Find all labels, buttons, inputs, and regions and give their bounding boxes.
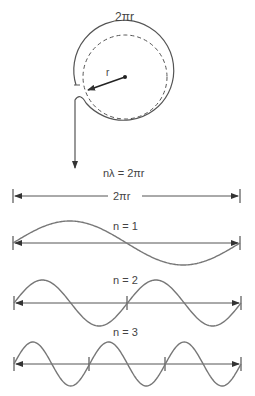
de-broglie-standing-wave-diagram: 2πr r nλ = 2πr 2πr n = 1 n = 2 n = 3 xyxy=(0,0,255,396)
unwrap-arrow xyxy=(75,97,86,168)
orbit-circle xyxy=(74,20,174,168)
radius-arrow xyxy=(88,77,125,90)
circumference-label: 2πr xyxy=(115,11,134,23)
relation-label: nλ = 2πr xyxy=(103,168,145,179)
length-label: 2πr xyxy=(113,191,130,202)
wave-n1-label: n = 1 xyxy=(113,221,138,232)
wave-n3-label: n = 3 xyxy=(113,327,138,338)
radius-label: r xyxy=(106,68,109,78)
wave-n2-label: n = 2 xyxy=(113,275,138,286)
wave-n3 xyxy=(14,342,241,386)
wave-n2 xyxy=(14,280,241,326)
